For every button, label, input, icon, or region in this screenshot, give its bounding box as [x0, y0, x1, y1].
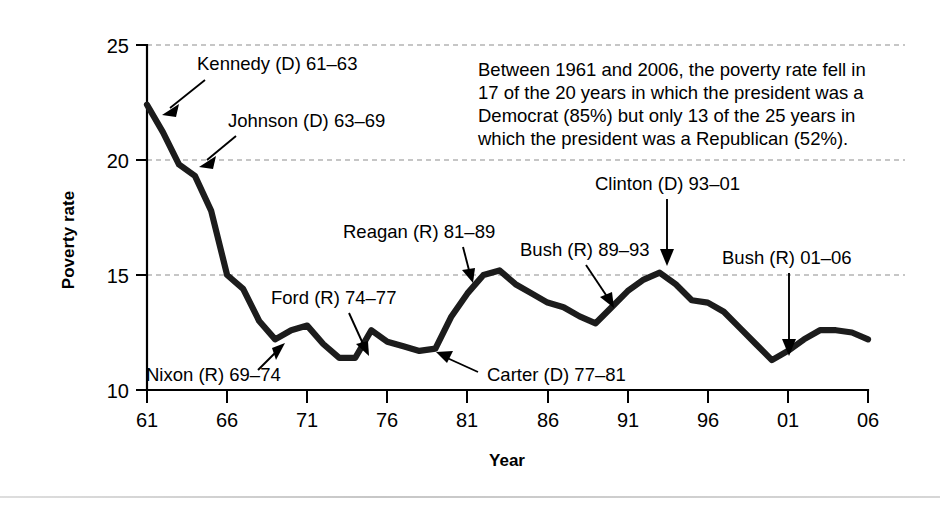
note-line-3: Democrat (85%) but only 13 of the 25 yea… [478, 105, 855, 126]
y-tick-label-10: 10 [107, 380, 129, 402]
annotation-carter-arrowhead [436, 351, 453, 363]
annotation-nixon-arrowhead [272, 343, 285, 360]
y-tick-label-25: 25 [107, 35, 129, 57]
annotation-carter-arrow [445, 357, 478, 372]
annotation-reagan: Reagan (R) 81–89 [343, 221, 495, 283]
x-tick-label-01: 01 [777, 409, 799, 431]
x-axis-ticks [147, 390, 868, 403]
poverty-rate-chart: 25 20 15 10 Poverty rate 61 66 71 76 81 [0, 0, 940, 509]
annotation-ford: Ford (R) 74–77 [271, 287, 396, 356]
note-annotation: Between 1961 and 2006, the poverty rate … [477, 59, 866, 149]
x-tick-label-86: 86 [537, 409, 559, 431]
x-tick-label-06: 06 [857, 409, 879, 431]
x-axis-tick-labels: 61 66 71 76 81 86 91 96 01 06 [136, 409, 879, 431]
annotation-carter-label: Carter (D) 77–81 [487, 364, 626, 385]
x-tick-label-66: 66 [216, 409, 238, 431]
x-tick-label-76: 76 [376, 409, 398, 431]
x-axis-title: Year [489, 451, 525, 470]
annotation-carter: Carter (D) 77–81 [436, 351, 626, 385]
annotation-johnson-label: Johnson (D) 63–69 [228, 110, 385, 131]
annotation-johnson-arrowhead [199, 156, 216, 169]
annotation-bush2-label: Bush (R) 01–06 [722, 247, 852, 268]
annotation-nixon: Nixon (R) 69–74 [146, 343, 285, 385]
annotation-johnson-arrow [207, 136, 236, 160]
y-tick-label-20: 20 [107, 150, 129, 172]
annotation-reagan-label: Reagan (R) 81–89 [343, 221, 495, 242]
x-tick-label-61: 61 [136, 409, 158, 431]
annotation-ford-label: Ford (R) 74–77 [271, 287, 396, 308]
y-axis-ticks [136, 45, 147, 390]
note-line-1: Between 1961 and 2006, the poverty rate … [478, 59, 866, 80]
x-tick-label-91: 91 [617, 409, 639, 431]
annotation-kennedy: Kennedy (D) 61–63 [162, 53, 357, 117]
x-tick-label-81: 81 [456, 409, 478, 431]
bottom-divider [0, 496, 940, 498]
annotation-bush1-arrow [586, 265, 608, 298]
x-tick-label-71: 71 [296, 409, 318, 431]
annotation-clinton-arrowhead [660, 249, 674, 266]
annotation-kennedy-arrow [170, 80, 205, 108]
annotation-bush-01-06: Bush (R) 01–06 [722, 247, 852, 356]
poverty-rate-figure: 25 20 15 10 Poverty rate 61 66 71 76 81 [0, 0, 940, 509]
annotation-kennedy-label: Kennedy (D) 61–63 [197, 53, 357, 74]
annotation-kennedy-arrowhead [162, 104, 179, 117]
annotation-ford-arrow [349, 313, 364, 346]
note-line-2: 17 of the 20 years in which the presiden… [478, 82, 864, 103]
annotation-bush1-arrowhead [600, 292, 614, 308]
y-axis-tick-labels: 25 20 15 10 [107, 35, 129, 402]
annotation-clinton-label: Clinton (D) 93–01 [595, 173, 740, 194]
note-line-4: which the president was a Republican (52… [477, 128, 848, 149]
y-tick-label-15: 15 [107, 265, 129, 287]
y-axis-title: Poverty rate [59, 191, 78, 289]
annotation-bush1-label: Bush (R) 89–93 [520, 239, 650, 260]
x-tick-label-96: 96 [697, 409, 719, 431]
